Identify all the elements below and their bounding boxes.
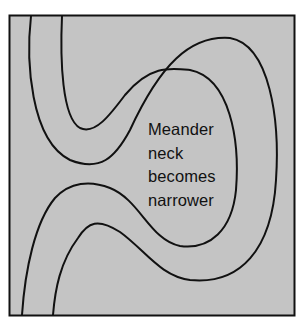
label-line-2: neck [148,142,216,166]
label-line-4: narrower [148,189,216,213]
label-line-3: becomes [148,165,216,189]
meander-neck-label: Meander neck becomes narrower [148,118,216,212]
label-line-1: Meander [148,118,216,142]
